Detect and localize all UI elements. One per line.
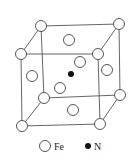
fe-atom-face-bottom	[68, 105, 79, 116]
legend-fe-label: Fe	[54, 141, 65, 152]
unit-cell-diagram: Fe N	[0, 0, 136, 163]
fe-atom-corner	[115, 90, 126, 101]
fe-atom-corner	[95, 119, 106, 130]
fe-atom-corner	[39, 93, 50, 104]
fe-atom-face-front	[55, 83, 66, 94]
fe-atom-face-right	[102, 65, 113, 76]
n-atom-body-center	[68, 71, 74, 77]
fe-atom-corner	[93, 49, 104, 60]
fe-atom-face-left	[27, 71, 38, 82]
fe-atom-face-top	[64, 35, 75, 46]
legend: Fe N	[40, 141, 102, 153]
fe-atom-corner	[114, 19, 125, 30]
fe-atom-corner	[16, 49, 27, 60]
legend-n-label: N	[94, 141, 101, 152]
legend-n-icon	[85, 143, 91, 149]
fe-atom-corner	[36, 21, 47, 32]
legend-fe-icon	[40, 141, 51, 152]
fe-atom-face-back	[75, 57, 86, 68]
fe-atom-corner	[17, 121, 28, 132]
